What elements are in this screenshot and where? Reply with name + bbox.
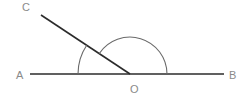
angle-diagram: A B C O: [0, 0, 248, 106]
point-label-a: A: [16, 69, 24, 81]
point-label-o: O: [130, 83, 139, 95]
arc-angle-cob: [99, 37, 167, 74]
line-oc: [41, 15, 130, 74]
point-label-c: C: [22, 1, 30, 13]
point-label-b: B: [229, 69, 236, 81]
arc-angle-aoc: [78, 45, 87, 74]
